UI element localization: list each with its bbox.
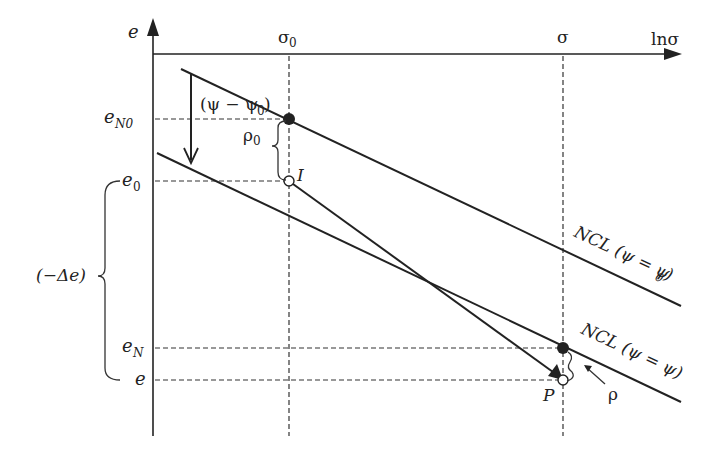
ncl-point: [557, 342, 569, 354]
rho0-text: ρ: [243, 125, 253, 145]
y-tick-label: e: [122, 169, 133, 190]
y-tick-eN: e N: [122, 335, 144, 360]
psi-shift-close: ): [264, 94, 271, 114]
diagram-canvas: lnσ e σ 0 σ e N0 e 0 e N e I P (ψ − ψ: [0, 0, 720, 455]
point-i-label: I: [296, 165, 304, 185]
x-tick-sigma0: σ 0: [278, 27, 297, 50]
rho0-subscript: 0: [253, 134, 261, 148]
y-tick-subscript: N: [132, 346, 144, 360]
y-tick-subscript: 0: [133, 180, 141, 194]
y-axis-label: e: [128, 21, 139, 42]
ncl-diagram: lnσ e σ 0 σ e N0 e 0 e N e I P (ψ − ψ: [0, 0, 720, 455]
y-tick-eN0: e N0: [104, 106, 134, 131]
y-tick-e: e: [135, 368, 146, 389]
delta-e-brace: [98, 181, 120, 380]
rho0-brace: [272, 121, 286, 180]
y-tick-label: e: [104, 106, 115, 127]
psi-shift-text: (ψ − ψ: [200, 94, 258, 114]
x-tick-subscript: 0: [289, 36, 297, 50]
y-tick-e0: e 0: [122, 169, 141, 194]
rho-label: ρ: [608, 384, 618, 404]
y-tick-subscript: N0: [114, 117, 134, 131]
x-axis-arrow-icon: [664, 48, 682, 60]
point-p-label: P: [542, 385, 555, 405]
delta-e-label: (−Δe): [36, 265, 86, 285]
ncl-lower-line: [157, 153, 681, 402]
psi-shift-label: (ψ − ψ 0 ): [200, 94, 271, 118]
point-i: [284, 176, 294, 186]
point-p: [558, 375, 568, 385]
rho0-label: ρ 0: [243, 125, 261, 148]
y-tick-label: e: [122, 335, 133, 356]
ncl0-point: [283, 113, 295, 125]
path-i-to-p: [293, 184, 553, 372]
rho-brace: [567, 352, 573, 381]
x-tick-sigma: σ: [557, 27, 569, 47]
y-axis-arrow-icon: [147, 18, 159, 36]
axes: [147, 18, 682, 436]
x-axis-label: lnσ: [651, 29, 679, 49]
